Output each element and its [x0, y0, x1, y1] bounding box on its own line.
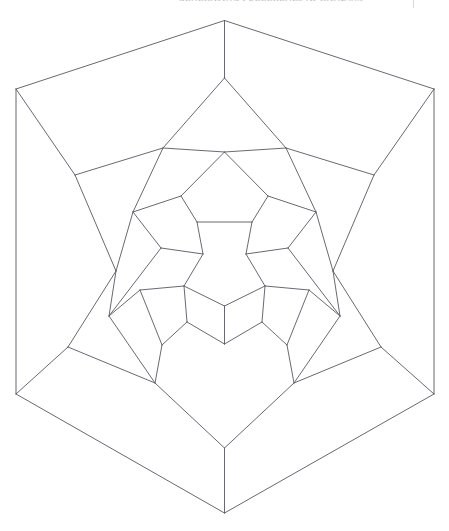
graph-edge: [68, 347, 155, 383]
graph-edge: [109, 290, 140, 316]
graph-edge: [133, 212, 161, 248]
graph-edge: [181, 152, 225, 196]
figure-page: GENERATING FULLERENES AT RANDOM: [0, 0, 449, 531]
graph-edge: [225, 394, 435, 513]
graph-edge: [225, 152, 269, 196]
graph-edge: [374, 89, 434, 175]
planar-graph-figure: [0, 0, 449, 531]
graph-edge: [268, 196, 316, 212]
graph-edge: [262, 322, 287, 345]
graph-edge: [184, 286, 225, 306]
graph-edge: [187, 322, 225, 344]
graph-edge: [252, 196, 268, 222]
graph-edge: [116, 212, 133, 271]
graph-edge: [225, 322, 263, 344]
graph-edge: [286, 148, 374, 175]
graph-edge: [333, 175, 374, 271]
graph-edge: [225, 286, 266, 306]
graph-edge: [161, 248, 203, 254]
graph-edge: [16, 394, 225, 513]
graph-edge: [225, 148, 287, 152]
graph-edge: [16, 347, 68, 394]
graph-edge: [288, 248, 340, 316]
graph-edge: [262, 286, 265, 322]
graph-edge: [225, 78, 287, 148]
graph-edge: [162, 322, 187, 345]
graph-edge: [246, 222, 252, 254]
graph-edge: [287, 290, 309, 345]
graph-edge: [286, 148, 316, 212]
graph-edge: [109, 316, 155, 383]
graph-edge: [294, 316, 340, 383]
graph-edge: [181, 196, 197, 222]
graph-edge: [246, 254, 265, 286]
graph-edge: [333, 271, 381, 347]
graph-edge: [140, 290, 162, 345]
graph-edge: [133, 148, 163, 212]
graph-edge: [184, 254, 203, 286]
graph-edge: [133, 196, 181, 212]
graph-edge: [316, 212, 333, 271]
graph-edge: [381, 347, 434, 394]
graph-edge: [309, 290, 340, 316]
graph-edge: [140, 286, 184, 290]
graph-edge: [225, 383, 295, 448]
graph-edge: [184, 286, 187, 322]
graph-edge: [265, 286, 309, 290]
graph-edge: [225, 21, 435, 90]
graph-edge: [287, 345, 294, 383]
graph-edge: [246, 248, 288, 254]
graph-edge: [288, 212, 316, 248]
graph-edge: [109, 248, 161, 316]
graph-edge: [197, 222, 203, 254]
graph-edge: [163, 148, 225, 152]
graph-edge: [294, 347, 381, 383]
graph-edge: [75, 175, 116, 271]
graph-edge-layer: [16, 21, 434, 514]
graph-edge: [16, 21, 225, 90]
graph-edge: [333, 271, 340, 316]
graph-edge: [109, 271, 116, 316]
graph-edge: [155, 345, 162, 383]
graph-edge: [163, 78, 225, 148]
graph-edge: [155, 383, 225, 448]
graph-edge: [75, 148, 163, 175]
graph-edge: [68, 271, 116, 347]
graph-edge: [16, 89, 75, 175]
